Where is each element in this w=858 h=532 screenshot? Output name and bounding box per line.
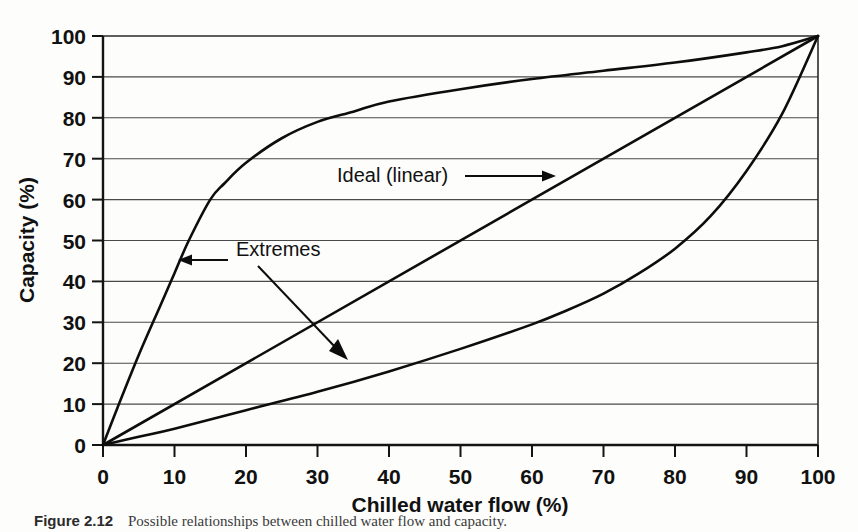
x-tick-label: 60 (520, 465, 543, 488)
x-tick-label: 100 (800, 465, 835, 488)
x-tick-label: 80 (663, 465, 686, 488)
figure-container: 100 90 80 70 60 50 40 30 20 10 0 0 10 20… (0, 0, 858, 532)
y-tick-label: 20 (63, 352, 86, 375)
x-tick-label: 70 (592, 465, 615, 488)
x-tick-label: 40 (377, 465, 400, 488)
figure-caption-clip: Figure 2.12 Possible relationships betwe… (0, 510, 858, 532)
y-tick-label: 10 (63, 393, 86, 416)
figure-caption-number: Figure 2.12 (34, 512, 113, 529)
y-tick-label: 100 (51, 25, 86, 48)
y-axis-tick-labels: 100 90 80 70 60 50 40 30 20 10 0 (51, 25, 86, 457)
y-axis-title: Capacity (%) (15, 177, 38, 303)
x-axis-ticks (103, 445, 818, 457)
annotation-label-ideal-linear: Ideal (linear) (337, 164, 448, 186)
annotation-ideal-linear: Ideal (linear) (337, 164, 556, 186)
y-tick-label: 40 (63, 270, 86, 293)
annotation-label-extremes: Extremes (236, 238, 320, 260)
x-tick-label: 10 (163, 465, 186, 488)
y-tick-label: 70 (63, 148, 86, 171)
x-tick-label: 50 (449, 465, 472, 488)
y-tick-label: 60 (63, 189, 86, 212)
y-tick-label: 0 (74, 434, 86, 457)
arrow-left-icon (178, 255, 192, 266)
x-axis-tick-labels: 0 10 20 30 40 50 60 70 80 90 100 (97, 465, 835, 488)
y-tick-label: 90 (63, 66, 86, 89)
chart-canvas: 100 90 80 70 60 50 40 30 20 10 0 0 10 20… (0, 0, 858, 532)
x-tick-label: 90 (735, 465, 758, 488)
annotation-extremes: Extremes (178, 238, 348, 360)
figure-caption: Figure 2.12 Possible relationships betwe… (0, 510, 858, 532)
y-axis-ticks (92, 36, 103, 445)
figure-caption-text: Possible relationships between chilled w… (128, 513, 507, 529)
x-tick-label: 30 (306, 465, 329, 488)
arrow-down-right-icon (329, 339, 348, 360)
arrow-right-icon (542, 171, 556, 182)
x-tick-label: 20 (234, 465, 257, 488)
x-tick-label: 0 (97, 465, 109, 488)
y-tick-label: 80 (63, 107, 86, 130)
y-tick-label: 50 (63, 230, 86, 253)
y-tick-label: 30 (63, 311, 86, 334)
